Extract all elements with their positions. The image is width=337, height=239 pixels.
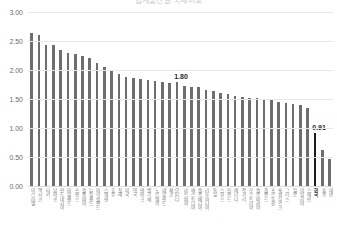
bar (299, 105, 302, 186)
x-tick-label: 에스토니아 (188, 188, 195, 239)
bar (328, 159, 331, 186)
bar (314, 133, 317, 186)
bar (212, 91, 215, 186)
x-tick-label: 미국 (122, 188, 129, 239)
bar (103, 67, 106, 186)
x-tick-label: 덴마크 (137, 188, 144, 239)
x-tick-label: 룩셈부르크 (275, 188, 282, 239)
bar (292, 104, 295, 186)
gridline-3.00 (28, 12, 333, 13)
x-tick-label: 이스라엘 (28, 188, 35, 239)
gridline-1.00 (28, 128, 333, 129)
x-tick-label: 인도네시아 (57, 188, 64, 239)
x-tick-label: 그리스 (282, 188, 289, 239)
page-title: 합계출산율 국제비교 (0, 0, 337, 5)
x-tick-label: 리투아니아 (202, 188, 209, 239)
y-tick-label: 3.00 (9, 9, 23, 16)
bar (234, 96, 237, 186)
fertility-rate-bar-chart: 합계출산율 국제비교 3.002.502.001.501.000.500.00 … (0, 0, 337, 239)
bar (190, 87, 193, 186)
y-tick-label: 1.00 (9, 125, 23, 132)
bar (161, 82, 164, 186)
x-tick-label: 이탈리아 (297, 188, 304, 239)
x-tick-label: 터키 (43, 188, 50, 239)
x-tick-label: 벨기에 (144, 188, 151, 239)
x-tick-label: 콜롬비아 (79, 188, 86, 239)
bar (147, 80, 150, 186)
bar (38, 35, 41, 186)
y-tick-label: 2.50 (9, 38, 23, 45)
x-tick-label: 남아공 (50, 188, 57, 239)
gridline-2.50 (28, 41, 333, 42)
x-tick-label: 스위스 (217, 188, 224, 239)
x-tick-label: 영국 (130, 188, 137, 239)
bar (67, 53, 70, 186)
x-tick-label: 네덜란드 (159, 188, 166, 239)
bar (277, 102, 280, 186)
x-tick-label: 호주 (108, 188, 115, 239)
gridline-0.50 (28, 157, 333, 158)
gridline-0.00 (28, 186, 333, 187)
x-tick-label: 대만 (326, 188, 333, 239)
x-tick-label: 라트비아 (181, 188, 188, 239)
bar (270, 100, 273, 186)
x-tick-label: 일본 (290, 188, 297, 239)
x-tick-label: 헝가리 (239, 188, 246, 239)
y-tick-label: 1.50 (9, 96, 23, 103)
bar (306, 108, 309, 186)
x-tick-label: 폴란드 (261, 188, 268, 239)
bar (263, 99, 266, 186)
bar (205, 90, 208, 186)
bar (248, 98, 251, 186)
bar (227, 94, 230, 186)
bar (176, 82, 179, 186)
x-tick-label: 아이슬란드 (93, 188, 100, 239)
bar (132, 78, 135, 186)
x-tick-label: 캐나다 (231, 188, 238, 239)
x-tick-label: 뉴질랜드 (86, 188, 93, 239)
x-tick-label: 핀란드 (224, 188, 231, 239)
bar (139, 79, 142, 186)
bar (88, 58, 91, 186)
bar (96, 63, 99, 186)
bar (256, 98, 259, 186)
bar (285, 103, 288, 186)
bar (321, 150, 324, 186)
bar (118, 74, 121, 186)
bar (183, 86, 186, 186)
bar (125, 77, 128, 186)
x-tick-label: 체코 (166, 188, 173, 239)
x-tick-label: 아일랜드 (64, 188, 71, 239)
x-tick-label: 멕시코 (35, 188, 42, 239)
x-tick-label: 오스트리아 (246, 188, 253, 239)
x-tick-label: 포르투갈 (268, 188, 275, 239)
bar (81, 56, 84, 187)
x-tick-label: 스웨덴 (101, 188, 108, 239)
x-tick-label: 한국 (311, 188, 318, 239)
gridline-2.00 (28, 70, 333, 71)
bar (30, 33, 33, 186)
gridline-1.50 (28, 99, 333, 100)
bar (52, 45, 55, 186)
x-tick-label: OECD (173, 188, 180, 239)
x-axis-labels: 이스라엘멕시코터키남아공인도네시아아일랜드프랑스콜롬비아뉴질랜드아이슬란드스웨덴… (28, 188, 333, 239)
y-axis-labels: 3.002.502.001.501.000.500.00 (0, 12, 26, 186)
x-tick-label: 프랑스 (72, 188, 79, 239)
bar (74, 54, 77, 186)
bar (45, 45, 48, 186)
x-tick-label: 노르웨이 (152, 188, 159, 239)
y-tick-label: 0.50 (9, 154, 23, 161)
bar (197, 87, 200, 186)
x-tick-label: 슬로베니아 (195, 188, 202, 239)
x-tick-label: 칠레 (115, 188, 122, 239)
x-tick-label: 홍콩 (319, 188, 326, 239)
x-tick-label: 슬로바키아 (253, 188, 260, 239)
bar (219, 93, 222, 186)
x-tick-label: 독일 (210, 188, 217, 239)
chart-title-clipped: 합계출산율 국제비교 (0, 0, 337, 7)
x-tick-label: 스페인 (304, 188, 311, 239)
y-tick-label: 0.00 (9, 183, 23, 190)
y-tick-label: 2.00 (9, 67, 23, 74)
bar (154, 81, 157, 186)
bar (241, 97, 244, 186)
